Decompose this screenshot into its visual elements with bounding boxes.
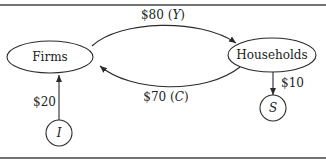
consumption-amount: $70 (143, 90, 166, 104)
consumption-symbol: C (175, 90, 184, 104)
income-amount: $80 (141, 8, 164, 22)
circular-flow-diagram: Firms Households $80 (Y) $70 (C) I $20 $… (0, 0, 326, 163)
investment-node: I (46, 120, 72, 146)
saving-node: S (260, 95, 286, 121)
firms-node: Firms (7, 41, 93, 73)
consumption-paren-close: ) (184, 90, 189, 104)
income-paren-close: ) (180, 8, 185, 22)
households-node: Households (228, 38, 316, 72)
households-label: Households (236, 48, 307, 62)
consumption-flow-label: $70 (C) (143, 90, 188, 104)
saving-label: S (269, 101, 277, 115)
firms-label: Firms (32, 50, 67, 64)
income-flow-arrow (92, 25, 236, 46)
consumption-flow-arrow (100, 66, 240, 87)
investment-flow-label: $20 (33, 95, 56, 109)
saving-flow-label: $10 (281, 76, 304, 90)
income-flow-label: $80 (Y) (141, 8, 185, 22)
investment-label: I (56, 126, 62, 140)
